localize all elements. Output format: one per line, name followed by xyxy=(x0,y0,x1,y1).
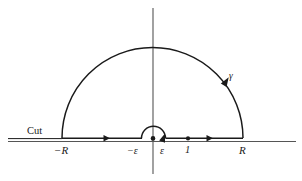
label-negative-epsilon: −ε xyxy=(127,146,138,156)
right-segment-arrowhead xyxy=(207,135,214,141)
contour-integration-figure: Cut −R −ε ε 1 R γ xyxy=(0,0,302,181)
label-gamma: γ xyxy=(229,72,233,82)
left-segment-arrowhead xyxy=(104,135,111,141)
label-R: R xyxy=(239,145,246,156)
label-epsilon: ε xyxy=(160,146,164,156)
label-cut: Cut xyxy=(27,126,42,137)
point-one xyxy=(186,136,190,140)
contour-diagram-svg xyxy=(0,0,302,181)
label-negative-R: −R xyxy=(54,145,68,156)
point-origin xyxy=(151,136,156,141)
label-one: 1 xyxy=(185,145,190,156)
